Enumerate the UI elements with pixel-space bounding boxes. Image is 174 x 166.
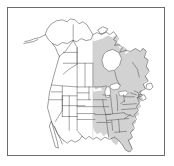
- alaska-panhandle-outline: [52, 44, 59, 57]
- map-figure: [0, 0, 174, 166]
- newfoundland-outline: [146, 83, 153, 90]
- bc-alberta-border: [63, 64, 77, 74]
- ca-nv-border: [55, 100, 62, 122]
- north-america-map: [8, 8, 164, 155]
- map-frame: [7, 7, 165, 156]
- alaska-outline: [46, 19, 93, 46]
- mexico-border-outline: [63, 136, 82, 143]
- arctic-islands-outline: [98, 27, 108, 34]
- baja-california-outline: [49, 121, 58, 148]
